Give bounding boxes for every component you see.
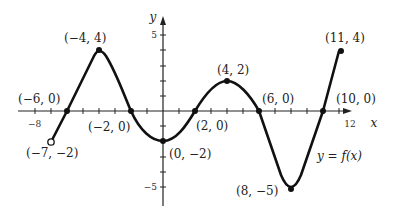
x-axis-label: x	[371, 116, 378, 130]
point-label: (−2, 0)	[88, 120, 130, 134]
point-marker	[64, 108, 70, 114]
point-label: (11, 4)	[325, 31, 365, 45]
point-marker	[160, 138, 166, 144]
point-label: (8, −5)	[236, 184, 278, 198]
point-marker	[338, 48, 344, 54]
point-label: (2, 0)	[196, 119, 228, 133]
x-axis-arrow-icon	[343, 108, 352, 114]
y-axis-label: y	[149, 10, 157, 24]
function-label: y = f(x)	[316, 149, 362, 163]
point-marker	[256, 108, 262, 114]
open-point-marker	[48, 139, 54, 145]
function-graph: −8 12 x 5 −5 y	[0, 0, 396, 214]
point-marker	[224, 78, 230, 84]
point-marker	[320, 108, 326, 114]
point-label: (−7, −2)	[26, 146, 78, 160]
point-label: (−6, 0)	[18, 92, 60, 106]
point-marker	[128, 108, 134, 114]
point-label: (−4, 4)	[64, 31, 106, 45]
point-marker	[96, 47, 102, 53]
point-label: (4, 2)	[217, 63, 249, 77]
x-max-tick-label: 12	[344, 119, 355, 129]
point-marker	[192, 108, 198, 114]
point-label: (10, 0)	[336, 92, 376, 106]
point-label: (0, −2)	[169, 147, 211, 161]
y-min-tick-label: −5	[144, 182, 158, 192]
point-label: (6, 0)	[262, 92, 294, 106]
y-max-tick-label: 5	[151, 30, 157, 40]
point-marker	[288, 186, 294, 192]
x-min-tick-label: −8	[28, 119, 42, 129]
function-curve	[51, 51, 339, 187]
y-axis-arrow-icon	[160, 16, 166, 25]
